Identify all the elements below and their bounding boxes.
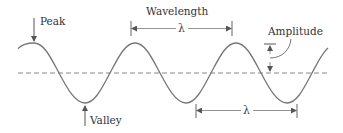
wavelength-bottom-marker: λ [196, 104, 297, 118]
amplitude-marker [264, 39, 291, 71]
wave-diagram: Peak Valley Wavelength λ λ Amplitude [0, 0, 343, 133]
wavelength-top-marker: λ [131, 21, 232, 36]
lambda-top: λ [178, 22, 185, 35]
amplitude-label: Amplitude [267, 25, 323, 37]
lambda-bottom: λ [243, 104, 250, 117]
wavelength-label: Wavelength [146, 5, 209, 17]
peak-label: Peak [40, 15, 66, 27]
valley-label: Valley [89, 114, 122, 126]
